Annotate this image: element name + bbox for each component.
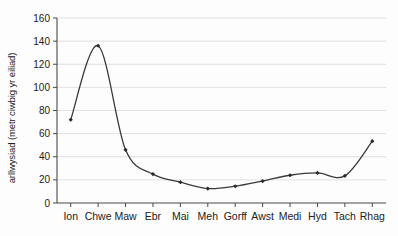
data-point bbox=[288, 173, 292, 177]
x-tick-label: Meh bbox=[198, 210, 219, 222]
data-point bbox=[206, 186, 210, 190]
x-tick-label: Mai bbox=[172, 210, 189, 222]
y-tick-label: 100 bbox=[33, 82, 50, 93]
gridlines bbox=[53, 18, 386, 203]
x-tick-label: Rhag bbox=[360, 210, 385, 222]
data-point bbox=[315, 171, 319, 175]
x-tick-label: Medi bbox=[279, 210, 302, 222]
y-tick-label: 40 bbox=[39, 151, 51, 162]
x-tick-label: Chwe bbox=[85, 210, 112, 222]
x-tick-label: Awst bbox=[251, 210, 274, 222]
x-tick-label: Tach bbox=[334, 210, 356, 222]
data-point bbox=[123, 148, 127, 152]
x-tick-label: Gorff bbox=[224, 210, 247, 222]
data-point bbox=[69, 118, 73, 122]
y-tick-label: 80 bbox=[39, 105, 51, 116]
x-tick-label: Ebr bbox=[145, 210, 162, 222]
x-tick-label: Ion bbox=[63, 210, 78, 222]
y-tick-label: 160 bbox=[33, 13, 50, 24]
x-tick-label: Maw bbox=[114, 210, 137, 222]
x-axis-tick-labels: IonChweMawEbrMaiMehGorffAwstMediHydTachR… bbox=[63, 210, 385, 222]
x-axis-tick-marks bbox=[71, 203, 373, 207]
y-tick-label: 20 bbox=[39, 174, 51, 185]
chart-plot-area: 020406080100120140160 IonChweMawEbrMaiMe… bbox=[0, 0, 398, 236]
data-series-line bbox=[71, 45, 373, 188]
y-tick-label: 120 bbox=[33, 59, 50, 70]
data-point bbox=[178, 180, 182, 184]
data-series-points bbox=[69, 44, 375, 191]
y-tick-label: 60 bbox=[39, 128, 51, 139]
y-tick-label: 0 bbox=[44, 198, 50, 209]
y-tick-label: 140 bbox=[33, 36, 50, 47]
x-tick-label: Hyd bbox=[308, 210, 327, 222]
y-axis-tick-labels: 020406080100120140160 bbox=[33, 13, 50, 209]
data-point bbox=[233, 184, 237, 188]
line-chart: arllwysiad (metr ciwbig yr eiliad) 02040… bbox=[0, 0, 398, 236]
